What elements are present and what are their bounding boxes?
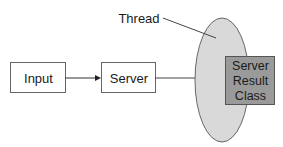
result-line-1: Server	[232, 59, 269, 74]
result-line-3: Class	[235, 89, 266, 104]
input-label: Input	[11, 63, 66, 93]
thread-label: Thread	[116, 10, 162, 26]
server-result-class-label: Server Result Class	[226, 57, 275, 105]
result-line-2: Result	[233, 74, 268, 89]
arrowhead-icon	[95, 75, 101, 81]
server-label: Server	[102, 63, 156, 93]
